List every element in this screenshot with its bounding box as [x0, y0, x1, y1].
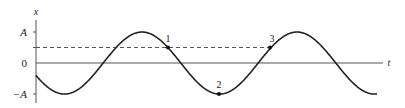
label-zero: 0 — [22, 57, 28, 69]
point-3-marker — [268, 46, 272, 50]
point-2-marker — [217, 92, 221, 96]
point-3-label: 3 — [270, 33, 275, 44]
point-1-label: 1 — [166, 33, 171, 44]
t-axis-label: t — [388, 57, 391, 68]
oscillation-diagram: x t A 0 −A 1 2 3 — [0, 0, 405, 108]
label-neg-A: −A — [13, 88, 27, 100]
x-axis-label: x — [33, 6, 39, 17]
point-1-marker — [166, 46, 170, 50]
point-2-label: 2 — [217, 79, 222, 90]
label-A: A — [19, 26, 27, 38]
